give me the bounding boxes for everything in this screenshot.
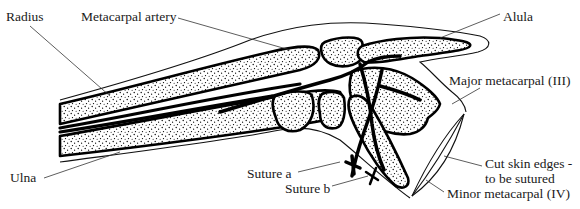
label-radius: Radius <box>6 9 44 24</box>
leader-radius <box>30 26 110 96</box>
wing-anatomy-diagram: Radius Metacarpal artery Alula Major met… <box>0 0 580 209</box>
leader-metacarpal-artery <box>178 18 290 50</box>
label-suture-a: Suture a <box>247 166 292 181</box>
carpal-bone-3 <box>319 92 345 128</box>
label-alula: Alula <box>503 9 533 24</box>
carpal-bone-2 <box>273 92 314 132</box>
label-minor-metacarpal: Minor metacarpal (IV) <box>447 186 570 201</box>
leader-suture-b <box>332 176 368 186</box>
label-ulna: Ulna <box>10 170 36 185</box>
label-cut-skin-line2: to be sutured <box>485 171 555 186</box>
leader-ulna <box>44 152 120 178</box>
label-metacarpal-artery: Metacarpal artery <box>81 9 177 24</box>
leader-minor-metacarpal <box>426 180 444 192</box>
label-suture-b: Suture b <box>285 181 331 196</box>
leader-cut-skin <box>444 156 482 166</box>
leader-suture-a <box>298 162 340 172</box>
label-major-metacarpal: Major metacarpal (III) <box>449 73 570 88</box>
label-cut-skin-line1: Cut skin edges - <box>485 156 573 171</box>
suture-a-knot <box>346 156 360 174</box>
